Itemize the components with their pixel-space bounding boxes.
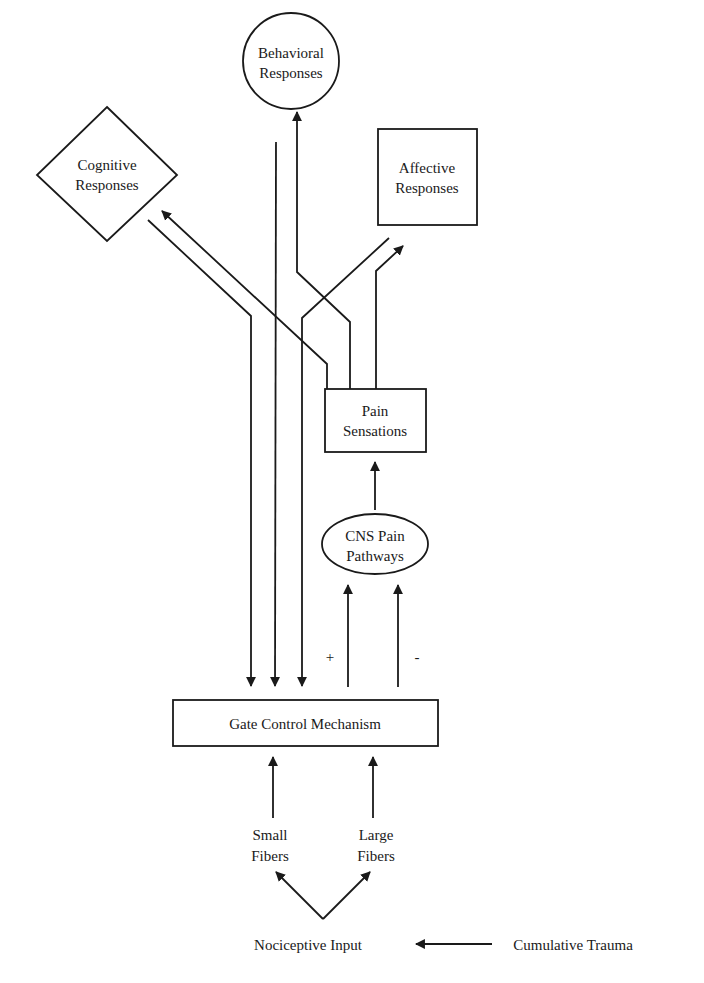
minus-sign: - <box>415 649 420 665</box>
svg-text:Fibers: Fibers <box>357 848 395 864</box>
svg-text:Fibers: Fibers <box>251 848 289 864</box>
cns-label-line1: CNS Pain <box>345 528 405 544</box>
cognitive-label-line1: Cognitive <box>77 157 137 173</box>
nociceptive-to-small-fibers-arrow <box>276 872 323 919</box>
cognitive-to-gate-arrow <box>148 220 251 686</box>
plus-sign: + <box>326 649 334 665</box>
behavioral-to-gate-arrow <box>275 142 276 686</box>
affective-responses-node: Affective Responses <box>378 129 477 225</box>
cognitive-responses-node: Cognitive Responses <box>37 107 177 241</box>
cognitive-label-line2: Responses <box>75 177 138 193</box>
gate-control-mechanism-node: Gate Control Mechanism <box>173 700 438 746</box>
pain-sensations-node: Pain Sensations <box>325 389 426 452</box>
cumulative-trauma-label: Cumulative Trauma <box>513 937 633 953</box>
cns-label-line2: Pathways <box>346 548 404 564</box>
affective-label-line2: Responses <box>395 180 458 196</box>
behavioral-label-line2: Responses <box>259 65 322 81</box>
pain-to-behavioral-arrow <box>297 112 350 389</box>
small-fibers-label: Small Fibers <box>251 827 289 864</box>
nociceptive-input-label: Nociceptive Input <box>254 937 363 953</box>
gate-label: Gate Control Mechanism <box>229 716 381 732</box>
behavioral-label-line1: Behavioral <box>258 45 324 61</box>
nociceptive-to-large-fibers-arrow <box>323 872 370 919</box>
svg-text:Small: Small <box>252 827 287 843</box>
pain-to-affective-arrow <box>376 246 403 389</box>
svg-text:Large: Large <box>359 827 394 843</box>
gate-control-diagram: Behavioral Responses Cognitive Responses… <box>0 0 704 983</box>
cns-pain-pathways-node: CNS Pain Pathways <box>322 514 428 574</box>
behavioral-responses-node: Behavioral Responses <box>243 13 339 109</box>
pain-sensations-label-line1: Pain <box>362 403 389 419</box>
pain-sensations-label-line2: Sensations <box>343 423 407 439</box>
large-fibers-label: Large Fibers <box>357 827 395 864</box>
affective-label-line1: Affective <box>399 160 456 176</box>
